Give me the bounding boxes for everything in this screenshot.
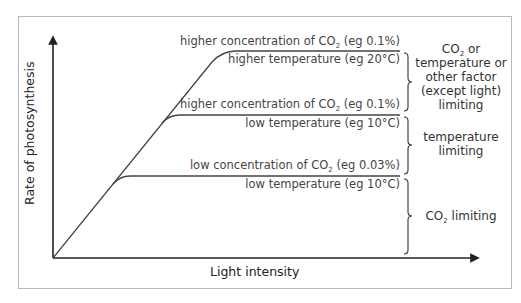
curve-bottom-label-2: low temperature (eg 10°C) xyxy=(245,178,400,191)
brace-top xyxy=(404,53,412,111)
curve-bottom-label-1: low concentration of CO2 (eg 0.03%) xyxy=(190,159,400,172)
curve-top-label-1: higher concentration of CO2 (eg 0.1%) xyxy=(180,35,400,48)
curve-middle-label-1: higher concentration of CO2 (eg 0.1%) xyxy=(180,98,400,111)
curve-middle-label-2: low temperature (eg 10°C) xyxy=(245,117,400,130)
region-label-top: CO2 or temperature or other factor (exce… xyxy=(414,42,508,112)
curve-top-label-2: higher temperature (eg 20°C) xyxy=(228,53,400,66)
x-axis-label: Light intensity xyxy=(210,264,299,279)
region-label-middle: temperature limiting xyxy=(414,130,508,158)
brace-middle xyxy=(404,117,412,174)
brace-bottom xyxy=(404,179,412,254)
region-label-bottom: CO2 limiting xyxy=(414,209,508,223)
curve-top xyxy=(53,51,400,258)
y-axis-label: Rate of photosynthesis xyxy=(22,61,37,205)
